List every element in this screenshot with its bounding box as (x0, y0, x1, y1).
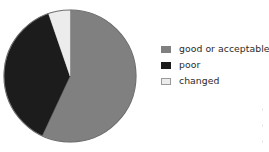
legend-item-poor[interactable]: poor (161, 57, 267, 73)
legend-item-good-or-acceptable[interactable]: good or acceptable (161, 41, 267, 57)
legend-label-poor: poor (179, 60, 200, 70)
legend-label-changed: changed (179, 76, 219, 86)
pie-chart-plot-area (2, 8, 138, 144)
scan-artifact (262, 140, 263, 143)
legend-swatch-good-or-acceptable (161, 46, 171, 53)
scan-artifact (262, 108, 263, 111)
pie-chart-figure: good or acceptable poor changed (0, 0, 269, 152)
legend-label-good-or-acceptable: good or acceptable (179, 44, 269, 54)
legend-item-changed[interactable]: changed (161, 73, 267, 89)
legend-swatch-changed (161, 78, 171, 85)
legend-swatch-poor (161, 62, 171, 69)
pie-svg (2, 8, 138, 144)
pie-slice-group (4, 10, 136, 142)
legend: good or acceptable poor changed (161, 41, 267, 89)
scan-artifact (262, 124, 263, 127)
